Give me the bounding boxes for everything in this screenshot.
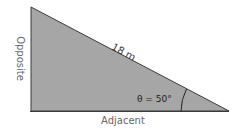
triangle-diagram <box>0 0 234 132</box>
opposite-label: Opposite <box>15 36 26 81</box>
adjacent-label: Adjacent <box>101 115 145 126</box>
angle-label: θ = 50° <box>137 94 172 104</box>
